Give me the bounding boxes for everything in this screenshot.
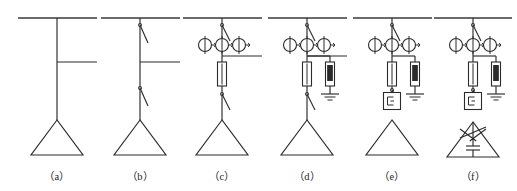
arrester-block <box>494 66 499 81</box>
transformer-winding-b <box>114 120 166 155</box>
current-transformer-bank <box>199 36 251 54</box>
figure-root: （a）（b）（c）（d）（e）（f） <box>0 0 517 191</box>
switch-blade <box>222 94 230 110</box>
earth-symbol <box>487 94 505 100</box>
transformer-winding-d <box>281 120 333 155</box>
delta-winding-triangle <box>281 120 333 155</box>
delta-winding-triangle <box>366 120 418 155</box>
earth-symbol <box>406 94 424 100</box>
scheme-e <box>353 18 432 155</box>
scheme-f <box>434 18 512 157</box>
current-transformer-bank <box>284 36 336 54</box>
fuse <box>303 62 312 86</box>
current-transformer-bank <box>450 36 502 54</box>
delta-winding-triangle <box>114 120 166 155</box>
fuse <box>469 62 478 86</box>
transformer-winding-f <box>447 122 499 157</box>
delta-winding-triangle <box>31 120 83 155</box>
shunt-capacitor <box>466 139 480 157</box>
arrester-block <box>413 66 418 81</box>
single-line-diagram-canvas <box>0 0 517 191</box>
star-point-connection <box>460 122 486 141</box>
scheme-d <box>268 18 347 155</box>
transformer-winding-c <box>196 120 248 155</box>
protection-relay-box <box>465 93 482 110</box>
delta-winding-triangle <box>196 120 248 155</box>
transformer-winding-e <box>366 120 418 155</box>
transformer-winding-a <box>31 120 83 155</box>
earth-symbol <box>321 94 339 100</box>
switch-blade <box>307 94 315 110</box>
protection-relay-box <box>384 93 401 110</box>
scheme-a <box>18 18 97 155</box>
fuse <box>388 62 397 86</box>
scheme-c <box>183 18 262 155</box>
switch-blade <box>140 25 148 43</box>
scheme-b <box>101 18 180 155</box>
switch-blade <box>140 88 148 106</box>
arrester-block <box>328 66 333 81</box>
fuse <box>218 62 227 86</box>
current-transformer-bank <box>369 36 421 54</box>
